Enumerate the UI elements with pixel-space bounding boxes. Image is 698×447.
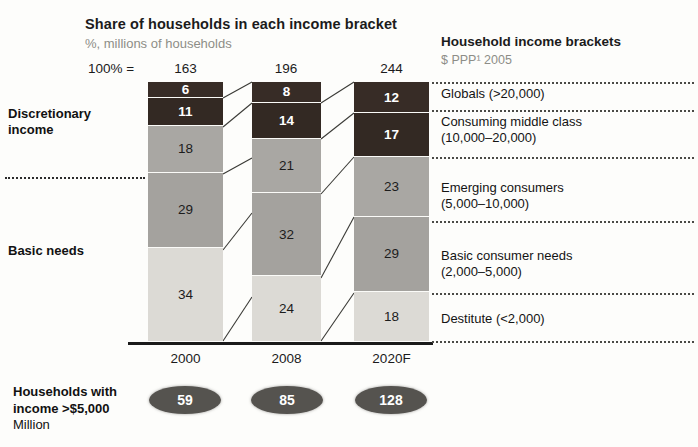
page-title: Share of households in each income brack…	[85, 16, 397, 32]
group-divider-dotted	[5, 177, 145, 179]
column-total-2020f: 244	[354, 61, 429, 76]
group-label-basic-needs-line1: Basic needs	[8, 243, 84, 259]
legend-item-basic-line1: Basic consumer needs	[441, 248, 573, 264]
x-tick-2000: 2000	[148, 351, 223, 366]
bar-segment-consuming-middle-2008[interactable]: 14	[252, 103, 321, 139]
stacked-bar-2000[interactable]: 6 11 18 29 34	[148, 82, 223, 341]
legend-item-consuming-line1: Consuming middle class	[441, 114, 582, 130]
footer-pill-2008[interactable]: 85	[251, 386, 323, 414]
bar-segment-globals-2020f[interactable]: 12	[354, 82, 429, 113]
stacked-bar-2020f[interactable]: 12 17 23 29 18	[354, 82, 429, 341]
group-label-discretionary-line2: income	[8, 122, 91, 138]
stacked-bar-2008[interactable]: 8 14 21 32 24	[252, 82, 321, 341]
pct-equals-label: 100% =	[88, 61, 134, 76]
legend-item-emerging-consumers[interactable]: Emerging consumers (5,000–10,000)	[441, 180, 564, 212]
footer-label-line1: Households with	[13, 384, 117, 401]
bar-segment-basic-needs-2020f[interactable]: 29	[354, 217, 429, 292]
legend-rule-basic-bottom	[432, 293, 694, 295]
column-total-2008: 196	[251, 61, 321, 76]
bar-segment-globals-2000[interactable]: 6	[148, 82, 223, 98]
legend-item-basic-line2: (2,000–5,000)	[441, 264, 573, 280]
x-tick-2008: 2008	[252, 351, 321, 366]
x-tick-2020f: 2020F	[354, 351, 429, 366]
legend-item-emerging-line2: (5,000–10,000)	[441, 196, 564, 212]
column-total-2000: 163	[148, 61, 223, 76]
footer-label-line2: income >$5,000	[13, 401, 117, 418]
bar-segment-destitute-2008[interactable]: 24	[252, 276, 321, 341]
legend-item-globals-line1: Globals (>20,000)	[441, 86, 545, 102]
footer-pill-2020f[interactable]: 128	[355, 386, 427, 414]
legend-rule-consuming-bottom	[432, 157, 694, 159]
legend-item-destitute[interactable]: Destitute (<2,000)	[441, 311, 545, 327]
bar-segment-globals-2008[interactable]: 8	[252, 82, 321, 103]
bar-segment-basic-needs-2000[interactable]: 29	[148, 173, 223, 248]
legend-title: Household income brackets	[441, 34, 621, 49]
axis-baseline	[128, 342, 433, 345]
legend-rule-top	[432, 82, 694, 84]
legend-subtitle: $ PPP¹ 2005	[441, 53, 512, 67]
group-label-discretionary-line1: Discretionary	[8, 106, 91, 122]
bar-segment-emerging-2008[interactable]: 21	[252, 139, 321, 193]
legend-item-emerging-line1: Emerging consumers	[441, 180, 564, 196]
footer-label: Households with income >$5,000 Million	[13, 384, 117, 434]
bar-segment-destitute-2020f[interactable]: 18	[354, 292, 429, 341]
legend-rule-bottom	[432, 341, 694, 343]
bar-segment-consuming-middle-2020f[interactable]: 17	[354, 113, 429, 157]
legend-item-destitute-line1: Destitute (<2,000)	[441, 311, 545, 327]
footer-pill-2000[interactable]: 59	[149, 386, 221, 414]
page-subtitle: %, millions of households	[85, 36, 232, 51]
legend-item-consuming-line2: (10,000–20,000)	[441, 130, 582, 146]
bar-segment-emerging-2000[interactable]: 18	[148, 126, 223, 173]
legend-rule-emerging-bottom	[432, 221, 694, 223]
legend-rule-globals-bottom	[432, 110, 694, 112]
group-label-basic-needs: Basic needs	[8, 243, 84, 259]
group-label-discretionary-income: Discretionary income	[8, 106, 91, 138]
bar-segment-destitute-2000[interactable]: 34	[148, 248, 223, 341]
bar-segment-consuming-middle-2000[interactable]: 11	[148, 98, 223, 127]
bar-segment-basic-needs-2008[interactable]: 32	[252, 193, 321, 276]
bar-segment-emerging-2020f[interactable]: 23	[354, 157, 429, 217]
legend-item-basic-consumer-needs[interactable]: Basic consumer needs (2,000–5,000)	[441, 248, 573, 280]
chart-canvas: Share of households in each income brack…	[0, 0, 698, 447]
legend-item-globals[interactable]: Globals (>20,000)	[441, 86, 545, 102]
legend-item-consuming-middle-class[interactable]: Consuming middle class (10,000–20,000)	[441, 114, 582, 146]
footer-label-line3: Million	[13, 417, 117, 434]
